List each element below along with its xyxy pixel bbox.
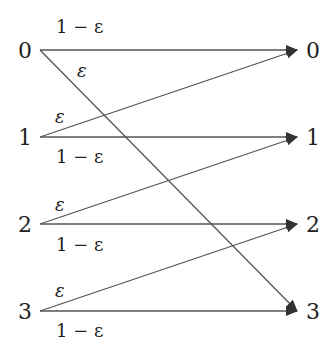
edges-layer <box>0 0 333 356</box>
input-node-2: 2 <box>18 214 32 236</box>
edge-label-3-2: ε <box>55 282 65 300</box>
edge-label-2-2: 1 − ε <box>56 236 103 254</box>
output-node-2: 2 <box>306 214 320 236</box>
input-node-1: 1 <box>18 127 32 149</box>
edge-label-2-1: ε <box>55 196 65 214</box>
output-node-1: 1 <box>306 127 320 149</box>
input-node-0: 0 <box>18 40 32 62</box>
output-node-0: 0 <box>306 40 320 62</box>
edge-label-3-3: 1 − ε <box>56 322 103 340</box>
edge-label-1-0: ε <box>55 108 65 126</box>
edge-label-0-3: ε <box>77 62 87 80</box>
output-node-3: 3 <box>306 301 320 323</box>
channel-diagram: 0 1 2 3 0 1 2 3 1 − ε ε ε 1 − ε ε 1 − ε … <box>0 0 333 356</box>
edge-label-1-1: 1 − ε <box>56 148 103 166</box>
edge-label-0-0: 1 − ε <box>56 18 103 36</box>
input-node-3: 3 <box>18 301 32 323</box>
